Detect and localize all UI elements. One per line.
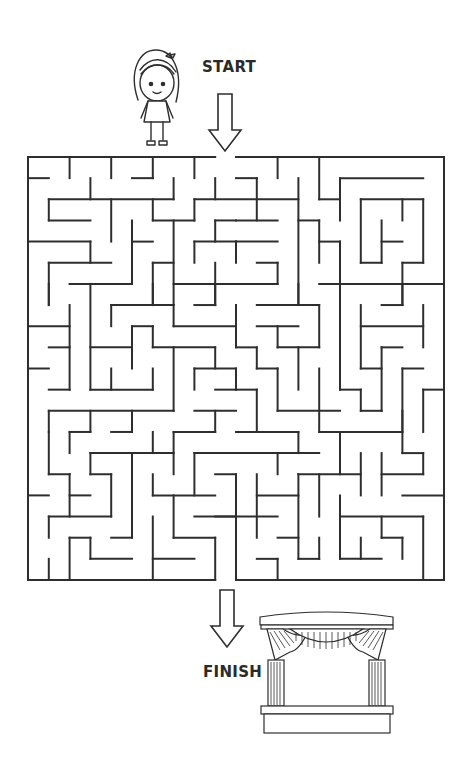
arrow-down-icon [211, 590, 243, 647]
maze-walls [28, 157, 444, 580]
girl-character-icon [134, 50, 178, 145]
theater-stage-icon [260, 612, 393, 733]
arrow-down-icon [209, 94, 241, 151]
maze-canvas [0, 0, 471, 778]
